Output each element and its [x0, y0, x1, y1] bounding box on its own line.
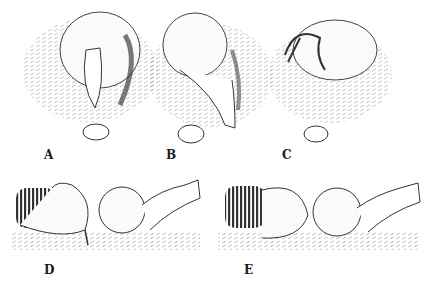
panel-label-e: E: [244, 263, 253, 277]
panel-label-a: A: [44, 148, 53, 162]
panel-b-drawing: [148, 13, 272, 143]
panel-label-c: C: [282, 148, 292, 162]
figure-illustration: [0, 0, 431, 285]
panel-e-drawing: [218, 183, 420, 250]
panel-label-b: B: [166, 148, 176, 162]
panel-d-drawing: [10, 180, 200, 250]
panel-label-d: D: [44, 263, 54, 277]
panel-a-drawing: [22, 12, 158, 140]
panel-c-drawing: [268, 20, 392, 142]
